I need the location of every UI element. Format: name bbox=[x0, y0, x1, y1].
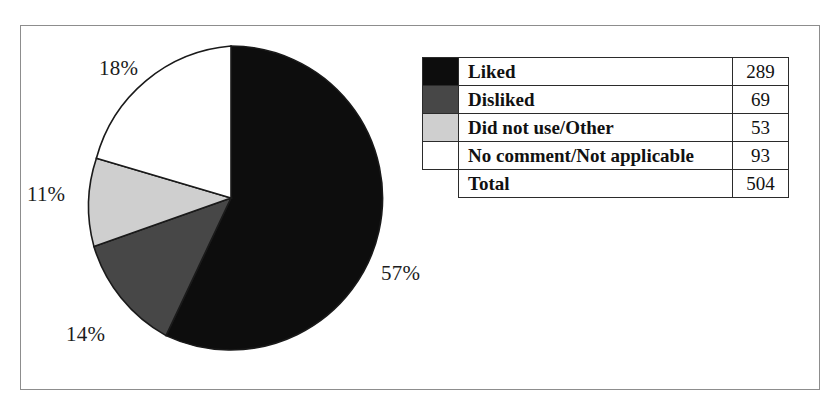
legend-swatch-disliked bbox=[423, 86, 459, 114]
legend-label-did-not-use: Did not use/Other bbox=[459, 114, 733, 142]
legend-value-no-comment: 93 bbox=[733, 142, 789, 170]
legend-value-total: 504 bbox=[733, 170, 789, 198]
pie-chart bbox=[71, 38, 391, 358]
pie-label-disliked: 14% bbox=[66, 322, 105, 347]
figure-frame: 18% 11% 14% 57% Liked 289 Disliked 69 bbox=[20, 25, 820, 390]
legend-table: Liked 289 Disliked 69 Did not use/Other … bbox=[422, 57, 789, 198]
color-swatch-icon bbox=[423, 86, 458, 113]
table-row-total: Total 504 bbox=[423, 170, 789, 198]
table-row: Liked 289 bbox=[423, 58, 789, 86]
color-swatch-icon bbox=[423, 114, 458, 141]
color-swatch-icon bbox=[423, 58, 458, 85]
legend-label-disliked: Disliked bbox=[459, 86, 733, 114]
table-row: No comment/Not applicable 93 bbox=[423, 142, 789, 170]
legend-swatch-liked bbox=[423, 58, 459, 86]
pie-label-no-comment: 18% bbox=[99, 56, 138, 81]
legend-label-total: Total bbox=[459, 170, 733, 198]
pie-label-liked: 57% bbox=[381, 261, 420, 286]
legend-label-no-comment: No comment/Not applicable bbox=[459, 142, 733, 170]
table-row: Did not use/Other 53 bbox=[423, 114, 789, 142]
legend-value-disliked: 69 bbox=[733, 86, 789, 114]
legend-swatch-no-comment bbox=[423, 142, 459, 170]
legend-value-did-not-use: 53 bbox=[733, 114, 789, 142]
legend-label-liked: Liked bbox=[459, 58, 733, 86]
legend-value-liked: 289 bbox=[733, 58, 789, 86]
table-row: Disliked 69 bbox=[423, 86, 789, 114]
legend-swatch-empty bbox=[423, 170, 459, 198]
pie-label-did-not-use: 11% bbox=[27, 182, 65, 207]
legend-swatch-did-not-use bbox=[423, 114, 459, 142]
color-swatch-icon bbox=[423, 142, 458, 169]
pie-chart-svg bbox=[71, 38, 391, 358]
